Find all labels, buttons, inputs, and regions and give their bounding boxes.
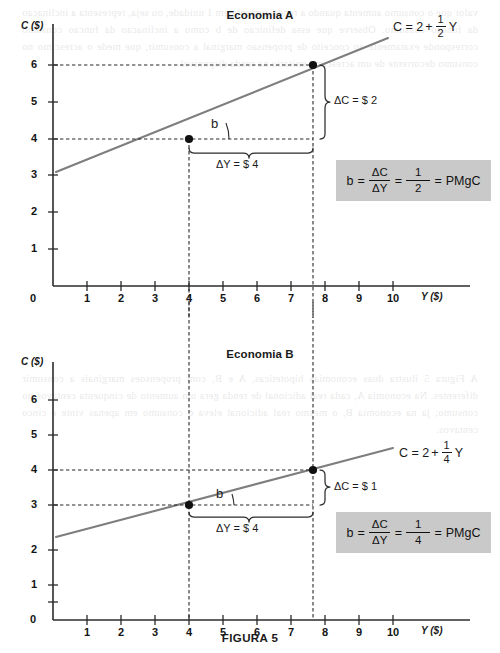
chart-b-equation-variable: Y [455, 446, 463, 460]
chart-economia-b: Economia B [0, 330, 500, 630]
chart-a-angle-arc [226, 123, 229, 139]
chart-b-ytick-6: 6 [31, 393, 37, 405]
chart-b-delta-y-brace [189, 512, 313, 522]
chart-a-formula-ratio: ΔC ΔY [369, 166, 391, 195]
chart-b-formula-value-num: 1 [406, 518, 430, 532]
chart-a-formula-result: PMgC [446, 174, 481, 188]
chart-b-plot [0, 330, 500, 630]
chart-b-formula-box: b = ΔC ΔY = 1 4 = PMgC [336, 512, 491, 553]
chart-a-ytick-2: 2 [31, 205, 37, 217]
chart-b-point-8-4 [309, 466, 317, 474]
figura-5: Economia A [0, 0, 500, 653]
chart-a-xtick-3: 3 [152, 292, 158, 304]
chart-a-xtick-6: 6 [254, 292, 260, 304]
chart-a-xtick-7: 7 [288, 292, 294, 304]
chart-a-xtick-5: 5 [220, 292, 226, 304]
chart-b-equation-fraction: 1 4 [442, 440, 452, 465]
chart-a-ytick-4: 4 [31, 132, 37, 144]
chart-a-ytick-3: 3 [31, 168, 37, 180]
chart-b-formula-eq1: = [357, 526, 364, 540]
chart-a-equation-variable: Y [449, 20, 457, 34]
chart-b-equation-plus: + [431, 446, 438, 460]
chart-a-xtick-8: 8 [322, 292, 328, 304]
chart-a-point-8-6 [309, 61, 317, 69]
chart-b-ytick-3: 3 [31, 498, 37, 510]
chart-a-xtick-10: 10 [387, 292, 399, 304]
chart-b-formula-b: b [346, 526, 353, 540]
chart-a-origin: 0 [30, 292, 36, 304]
chart-b-formula-ratio-den: ΔY [369, 532, 390, 547]
chart-b-equation-lhs: C = 2 [399, 446, 429, 460]
chart-a-xtick-9: 9 [356, 292, 362, 304]
chart-b-formula-value: 1 4 [406, 518, 430, 547]
chart-a-delta-c-label: ΔC = $ 2 [334, 94, 377, 106]
chart-b-angle-arc [232, 494, 234, 505]
chart-b-point-4-3 [185, 501, 193, 509]
chart-a-ytick-5: 5 [31, 95, 37, 107]
chart-a-formula-ratio-num: ΔC [369, 166, 391, 180]
chart-economia-a: Economia A [0, 0, 500, 320]
chart-a-formula-eq2: = [395, 174, 402, 188]
figure-caption: FIGURA 5 [0, 632, 500, 644]
chart-a-equation-plus: + [425, 20, 432, 34]
chart-b-delta-c-label: ΔC = $ 1 [334, 480, 377, 492]
chart-b-equation-numerator: 1 [442, 440, 452, 452]
chart-b-formula-result: PMgC [446, 526, 481, 540]
chart-b-y-axis-label: C ($) [21, 356, 43, 367]
chart-a-equation-numerator: 1 [436, 14, 446, 26]
chart-a-delta-y-brace [189, 148, 313, 158]
chart-a-equation: C = 2 + 1 2 Y [393, 14, 457, 39]
chart-a-formula-value-num: 1 [406, 166, 430, 180]
chart-b-delta-c-brace [320, 470, 330, 505]
chart-a-point-4-4 [185, 135, 193, 143]
chart-a-formula-box: b = ΔC ΔY = 1 2 = PMgC [336, 160, 491, 201]
chart-b-ytick-1: 1 [31, 578, 37, 590]
chart-b-slope-marker: b [216, 486, 223, 501]
chart-a-ytick-1: 1 [31, 242, 37, 254]
chart-a-delta-c-brace [320, 65, 330, 139]
chart-a-formula-value: 1 2 [406, 166, 430, 195]
chart-a-delta-y-label: ΔY = $ 4 [216, 158, 258, 170]
chart-b-equation-denominator: 4 [442, 452, 452, 465]
chart-b-origin: 0 [30, 613, 36, 625]
chart-b-formula-ratio-num: ΔC [369, 518, 391, 532]
chart-b-delta-y-label: ΔY = $ 4 [216, 522, 258, 534]
chart-a-x-axis-label: Y ($) [421, 291, 443, 302]
chart-a-y-axis-label: C ($) [21, 20, 43, 31]
chart-b-formula-eq3: = [434, 526, 441, 540]
chart-a-xtick-1: 1 [84, 292, 90, 304]
chart-b-ytick-2: 2 [31, 543, 37, 555]
chart-a-equation-fraction: 1 2 [436, 14, 446, 39]
chart-a-slope-marker: b [211, 116, 218, 131]
chart-b-formula-value-den: 4 [406, 532, 430, 547]
chart-b-equation: C = 2 + 1 4 Y [399, 440, 463, 465]
chart-a-ytick-6: 6 [31, 58, 37, 70]
chart-b-ytick-4: 4 [31, 463, 37, 475]
chart-b-ytick-5: 5 [31, 428, 37, 440]
chart-b-formula-eq2: = [395, 526, 402, 540]
chart-a-equation-denominator: 2 [436, 26, 446, 39]
chart-a-xtick-2: 2 [118, 292, 124, 304]
chart-a-formula-b: b [346, 174, 353, 188]
chart-a-formula-eq3: = [434, 174, 441, 188]
chart-a-formula-ratio-den: ΔY [369, 180, 390, 195]
chart-a-formula-eq1: = [357, 174, 364, 188]
chart-b-formula-ratio: ΔC ΔY [369, 518, 391, 547]
chart-a-formula-value-den: 2 [406, 180, 430, 195]
chart-a-equation-lhs: C = 2 [393, 20, 423, 34]
